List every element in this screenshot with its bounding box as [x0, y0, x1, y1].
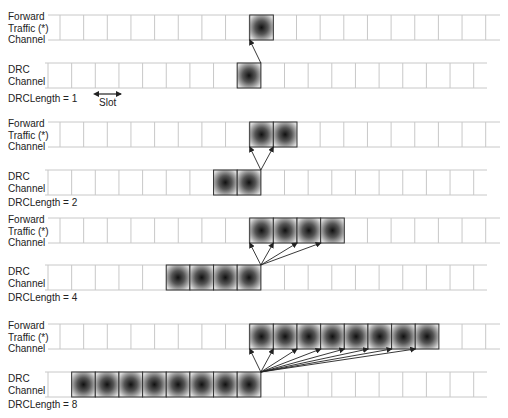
shaded-slot [214, 372, 238, 397]
shaded-slot [119, 372, 143, 397]
shaded-slot [273, 218, 297, 243]
shaded-slot [95, 372, 119, 397]
drc-length-label: DRCLength = 1 [8, 93, 77, 104]
shaded-slot [321, 324, 345, 349]
shaded-slot [166, 372, 190, 397]
forward-traffic-channel-label: Forward Traffic (*) Channel [8, 11, 49, 46]
drc-length-label: DRCLength = 4 [8, 292, 77, 303]
shaded-slot [250, 324, 274, 349]
shaded-slot [143, 372, 167, 397]
shaded-slot [214, 170, 238, 195]
shaded-slot [214, 265, 238, 290]
shaded-slot [273, 122, 297, 147]
drc-timing-diagram [0, 0, 508, 418]
mapping-arrows [250, 40, 416, 372]
shaded-slot [321, 218, 345, 243]
shaded-slot [273, 324, 297, 349]
forward-traffic-channel-label: Forward Traffic (*) Channel [8, 214, 49, 249]
shaded-slot [237, 170, 261, 195]
shaded-slot [250, 218, 274, 243]
drc-length-label: DRCLength = 8 [8, 399, 77, 410]
shaded-slot [237, 63, 261, 88]
forward-traffic-channel-label: Forward Traffic (*) Channel [8, 118, 49, 153]
shaded-slot [190, 265, 214, 290]
shaded-slot [297, 324, 321, 349]
shaded-slot [250, 15, 274, 40]
drc-channel-label: DRC Channel [8, 266, 45, 289]
shaded-slot [250, 122, 274, 147]
shaded-slot [190, 372, 214, 397]
shaded-slot [344, 324, 368, 349]
shaded-slots [72, 15, 439, 397]
shaded-slot [392, 324, 416, 349]
drc-channel-label: DRC Channel [8, 373, 45, 396]
drc-length-label: DRCLength = 2 [8, 197, 77, 208]
drc-channel-label: DRC Channel [8, 64, 45, 87]
drc-channel-label: DRC Channel [8, 171, 45, 194]
shaded-slot [237, 372, 261, 397]
shaded-slot [166, 265, 190, 290]
shaded-slot [297, 218, 321, 243]
shaded-slot [237, 265, 261, 290]
shaded-slot [415, 324, 439, 349]
shaded-slot [72, 372, 96, 397]
slot-label: Slot [99, 97, 116, 108]
forward-traffic-channel-label: Forward Traffic (*) Channel [8, 320, 49, 355]
shaded-slot [368, 324, 392, 349]
